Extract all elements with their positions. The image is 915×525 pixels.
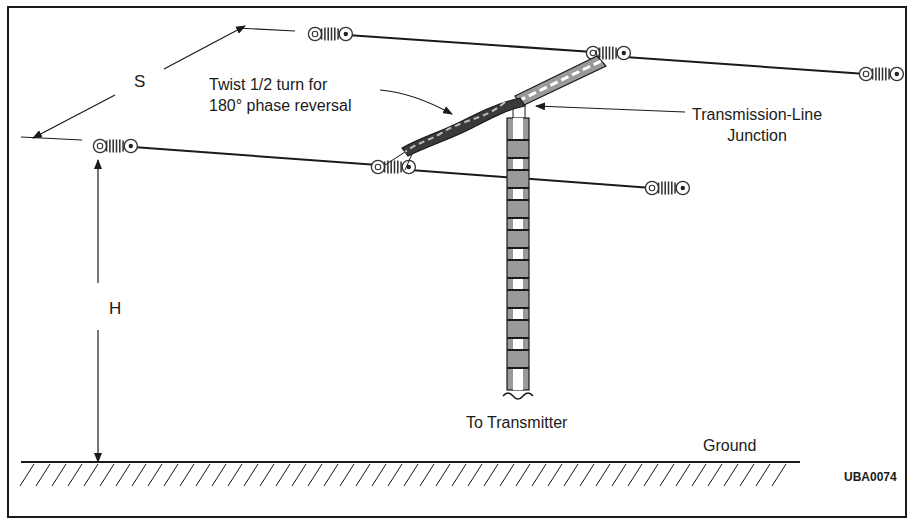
ground-label: Ground: [703, 437, 756, 455]
twist-pointer-arrow: [380, 90, 452, 114]
feed-line: [503, 104, 533, 399]
phasing-line: [385, 50, 606, 170]
twist-annotation: Twist 1/2 turn for 180° phase reversal: [209, 74, 351, 116]
ground-plane: [20, 462, 800, 486]
insulator-icon: [308, 27, 352, 40]
spacing-label: S: [134, 72, 145, 92]
insulator-icon: [645, 181, 689, 194]
insulator-icon: [93, 139, 137, 152]
twist-annotation-line1: Twist 1/2 turn for: [209, 74, 351, 95]
height-label: H: [109, 299, 121, 319]
junction-annotation: Transmission-Line Junction: [692, 104, 822, 146]
junction-pointer-arrow: [536, 106, 685, 112]
junction-annotation-line2: Junction: [692, 125, 822, 146]
to-transmitter-label: To Transmitter: [466, 414, 567, 432]
twist-annotation-line2: 180° phase reversal: [209, 95, 351, 116]
front-dipole: [93, 139, 689, 194]
insulator-icon: [859, 67, 903, 80]
figure-id: UBA0074: [844, 470, 897, 484]
junction-annotation-line1: Transmission-Line: [692, 104, 822, 125]
rear-dipole: [308, 27, 903, 80]
